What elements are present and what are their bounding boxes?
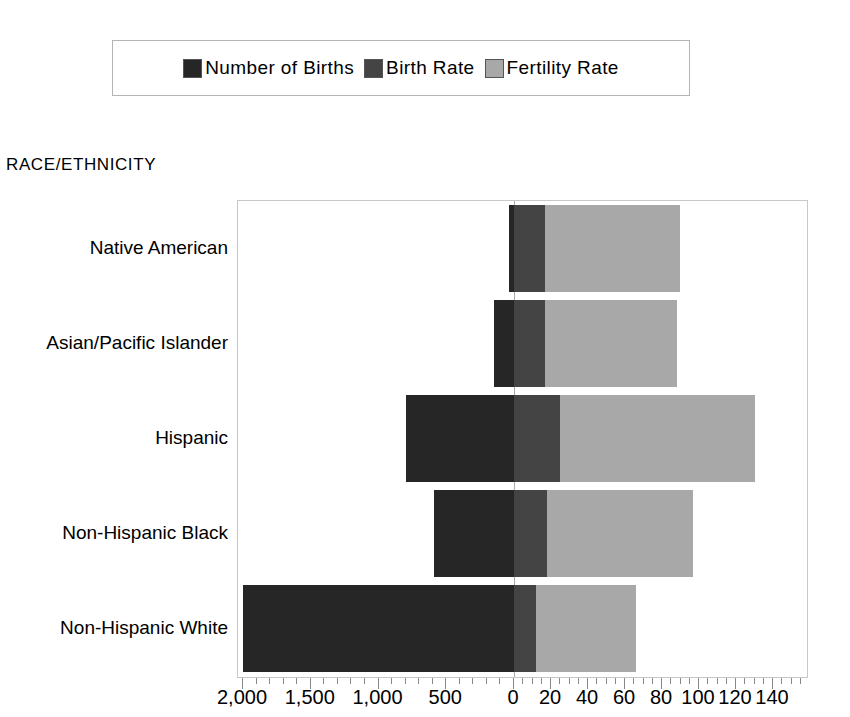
axis-tick-minor bbox=[633, 678, 634, 684]
axis-tick-minor bbox=[283, 678, 284, 684]
axis-tick-minor bbox=[596, 678, 597, 684]
axis-tick-minor bbox=[781, 678, 782, 684]
axis-tick-minor bbox=[726, 678, 727, 684]
bar-row bbox=[238, 490, 807, 577]
bar-segment-fertility-rate bbox=[536, 585, 636, 672]
tick-label-rate: 120 bbox=[718, 686, 751, 709]
axis-tick-minor bbox=[459, 678, 460, 684]
bar-segment-birth-rate bbox=[514, 395, 560, 482]
axis-tick-minor bbox=[472, 678, 473, 684]
axis-tick-minor bbox=[499, 678, 500, 684]
bar-segment-number-of-births bbox=[434, 490, 514, 577]
axis-tick-minor bbox=[569, 678, 570, 684]
bar-segment-fertility-rate bbox=[560, 395, 754, 482]
axis-tick-minor bbox=[559, 678, 560, 684]
tick-label-births: 500 bbox=[429, 686, 462, 709]
axis-tick-minor bbox=[391, 678, 392, 684]
tick-label-rate: 60 bbox=[613, 686, 635, 709]
axis-tick-minor bbox=[606, 678, 607, 684]
tick-label-rate: 80 bbox=[650, 686, 672, 709]
bar-segment-birth-rate bbox=[514, 585, 536, 672]
tick-label-births: 1,500 bbox=[285, 686, 335, 709]
bar-row bbox=[238, 585, 807, 672]
bar-row bbox=[238, 205, 807, 292]
category-label: Non-Hispanic Black bbox=[0, 522, 228, 544]
axis-tick-minor bbox=[680, 678, 681, 684]
axis-tick-minor bbox=[532, 678, 533, 684]
axis-tick-minor bbox=[670, 678, 671, 684]
axis-tick-minor bbox=[643, 678, 644, 684]
chart-legend: Number of Births Birth Rate Fertility Ra… bbox=[112, 40, 690, 96]
legend-label-number-of-births: Number of Births bbox=[205, 57, 354, 79]
axis-tick-minor bbox=[350, 678, 351, 684]
bar-segment-birth-rate bbox=[514, 205, 545, 292]
axis-tick-minor bbox=[405, 678, 406, 684]
axis-tick-minor bbox=[269, 678, 270, 684]
legend-entry-fertility-rate: Fertility Rate bbox=[485, 57, 619, 79]
bar-segment-number-of-births bbox=[494, 300, 514, 387]
tick-label-rate: 0 bbox=[507, 686, 518, 709]
axis-tick-minor bbox=[522, 678, 523, 684]
axis-tick-minor bbox=[717, 678, 718, 684]
axis-tick-minor bbox=[763, 678, 764, 684]
axis-tick-minor bbox=[578, 678, 579, 684]
axis-tick-minor bbox=[486, 678, 487, 684]
tick-label-rate: 140 bbox=[755, 686, 788, 709]
axis-tick-minor bbox=[541, 678, 542, 684]
y-axis-title: RACE/ETHNICITY bbox=[6, 155, 156, 175]
axis-tick-minor bbox=[689, 678, 690, 684]
category-label: Asian/Pacific Islander bbox=[0, 332, 228, 354]
plot-area bbox=[237, 200, 808, 678]
bar-segment-number-of-births bbox=[243, 585, 514, 672]
axis-tick-minor bbox=[707, 678, 708, 684]
axis-tick-minor bbox=[791, 678, 792, 684]
tick-label-births: 2,000 bbox=[217, 686, 267, 709]
bar-segment-fertility-rate bbox=[547, 490, 693, 577]
legend-swatch-number-of-births bbox=[183, 59, 202, 78]
legend-entry-birth-rate: Birth Rate bbox=[364, 57, 474, 79]
axis-tick-minor bbox=[800, 678, 801, 684]
tick-label-rate: 20 bbox=[539, 686, 561, 709]
axis-tick-minor bbox=[744, 678, 745, 684]
axis-tick-minor bbox=[652, 678, 653, 684]
bar-segment-fertility-rate bbox=[545, 300, 676, 387]
axis-tick-minor bbox=[296, 678, 297, 684]
bar-segment-fertility-rate bbox=[545, 205, 680, 292]
tick-label-rate: 40 bbox=[576, 686, 598, 709]
plot-inner bbox=[238, 201, 807, 677]
axis-tick-minor bbox=[432, 678, 433, 684]
axis-tick-minor bbox=[337, 678, 338, 684]
tick-label-rate: 100 bbox=[681, 686, 714, 709]
bar-row bbox=[238, 395, 807, 482]
axis-tick-minor bbox=[323, 678, 324, 684]
axis-tick-minor bbox=[364, 678, 365, 684]
legend-label-birth-rate: Birth Rate bbox=[386, 57, 474, 79]
axis-tick-minor bbox=[754, 678, 755, 684]
category-label: Native American bbox=[0, 237, 228, 259]
tick-label-births: 1,000 bbox=[352, 686, 402, 709]
legend-entry-number-of-births: Number of Births bbox=[183, 57, 354, 79]
category-label: Hispanic bbox=[0, 427, 228, 449]
axis-tick-minor bbox=[256, 678, 257, 684]
legend-swatch-birth-rate bbox=[364, 59, 383, 78]
axis-tick-minor bbox=[615, 678, 616, 684]
axis-tick-minor bbox=[418, 678, 419, 684]
bar-segment-birth-rate bbox=[514, 490, 547, 577]
bar-row bbox=[238, 300, 807, 387]
x-axis-tick-labels: 2,0001,5001,000500020406080100120140 bbox=[0, 686, 850, 717]
category-label: Non-Hispanic White bbox=[0, 617, 228, 639]
legend-swatch-fertility-rate bbox=[485, 59, 504, 78]
bar-segment-birth-rate bbox=[514, 300, 545, 387]
legend-label-fertility-rate: Fertility Rate bbox=[507, 57, 619, 79]
bar-segment-number-of-births bbox=[406, 395, 514, 482]
